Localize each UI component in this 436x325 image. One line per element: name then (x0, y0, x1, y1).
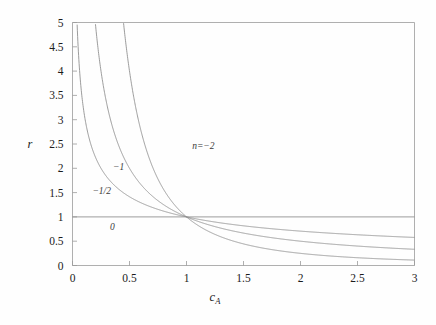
y-axis-title: r (28, 137, 33, 151)
curve-label-n-1-2: −1/2 (92, 186, 111, 196)
x-axis-ticks (73, 261, 415, 266)
curve-n-1 (95, 24, 414, 249)
y-tick-label-5: 2.5 (49, 138, 64, 150)
curve-label-n-1: −1 (113, 162, 124, 172)
y-tick-label-1: 0.5 (49, 235, 64, 247)
y-tick-label-3: 1.5 (49, 187, 64, 199)
y-tick-label-4: 2 (58, 162, 64, 174)
axes-frame (73, 23, 415, 266)
y-tick-label-10: 5 (58, 17, 64, 29)
curve-labels-group: n=−2−1−1/20 (92, 141, 214, 232)
y-tick-labels: 00.511.522.533.544.55 (49, 17, 64, 272)
curve-n-2 (124, 23, 415, 260)
curve-series-group (73, 23, 415, 260)
x-tick-label-6: 3 (412, 272, 418, 284)
x-axis-title: cA (210, 290, 222, 306)
figure-container: n=−2−1−1/20 00.511.522.53 00.511.522.533… (0, 0, 436, 325)
x-tick-label-2: 1 (184, 272, 190, 284)
curve-label-n-0: 0 (110, 222, 115, 232)
y-tick-label-2: 1 (58, 211, 64, 223)
y-tick-label-8: 4 (58, 65, 64, 77)
curve-label-n-2: n=−2 (192, 141, 215, 151)
x-tick-label-3: 1.5 (236, 272, 251, 284)
plot-frame (73, 23, 415, 266)
y-tick-label-6: 3 (58, 114, 64, 126)
y-axis-ticks (73, 23, 78, 266)
y-tick-label-7: 3.5 (49, 89, 64, 101)
x-tick-label-4: 2 (298, 272, 304, 284)
chart-plot: n=−2−1−1/20 00.511.522.53 00.511.522.533… (0, 0, 436, 325)
x-tick-label-0: 0 (70, 272, 76, 284)
x-tick-labels: 00.511.522.53 (70, 272, 418, 284)
x-tick-label-5: 2.5 (350, 272, 365, 284)
y-tick-label-0: 0 (58, 260, 64, 272)
y-tick-label-9: 4.5 (49, 41, 64, 53)
x-axis-title-subscript: A (214, 296, 221, 306)
x-tick-label-1: 0.5 (122, 272, 137, 284)
